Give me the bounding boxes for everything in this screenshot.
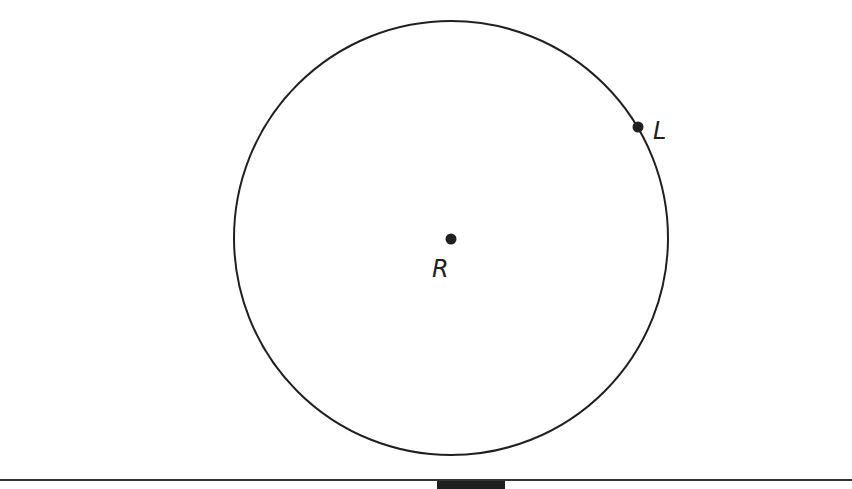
horizontal-rule [0,479,852,481]
dark-tab-marker [437,481,505,489]
label-l: L [653,117,666,145]
circle-diagram: R L [0,0,852,489]
label-r: R [432,255,449,283]
point-l-dot [633,122,644,133]
point-r-dot [446,234,457,245]
